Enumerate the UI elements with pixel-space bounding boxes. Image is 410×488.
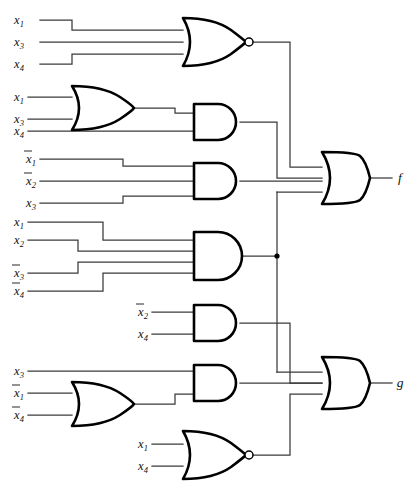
gate-and-c [194,232,242,280]
var-sub: 4 [20,63,25,73]
svg-text:x2: x2 [137,305,149,321]
input-label-and-c-3: x4 [12,283,25,300]
output-label-f: f [398,170,404,185]
input-label-nor-top-0: x1 [13,13,24,29]
var-sub: 4 [20,290,25,300]
gate-or-f [322,152,370,204]
var-sub: 4 [144,465,149,475]
input-label-and-b-1: x2 [24,173,37,190]
svg-text:x1: x1 [25,152,36,168]
svg-text:x3: x3 [13,266,24,282]
var-sub: 3 [19,272,24,282]
svg-text:x1: x1 [13,215,24,231]
svg-text:x4: x4 [13,57,25,73]
nor-bubble-icon [245,38,253,46]
input-label-nor-top-1: x3 [13,35,24,51]
var-sub: 1 [20,392,24,402]
gate-or-g [322,357,370,409]
var-sub: 4 [144,333,149,343]
input-label-and-c-1: x2 [13,233,25,249]
var-sub: 1 [32,158,36,168]
var-sub: 4 [20,130,25,140]
svg-text:x3: x3 [13,364,24,380]
input-label-and-d-0: x2 [136,304,149,321]
input-label-and-e-direct-0: x3 [13,364,24,380]
svg-text:x1: x1 [13,386,24,402]
var-sub: 1 [20,96,24,106]
input-label-nor-top-2: x4 [13,57,25,73]
var-sub: 1 [20,19,24,29]
svg-text:x3: x3 [25,196,36,212]
gate-and-b [194,163,236,199]
input-label-or-a-0: x1 [13,90,24,106]
svg-text:x3: x3 [13,35,24,51]
input-label-and-d-1: x4 [137,327,149,343]
input-label-or-b-1: x4 [12,407,25,424]
svg-text:x2: x2 [25,174,37,190]
gate-nor-top [183,18,253,66]
gate-or-b [72,382,134,426]
var-sub: 3 [31,202,36,212]
svg-text:x4: x4 [13,408,25,424]
gate-and-e [194,365,236,401]
gate-and-a [194,104,236,140]
var-sub: 1 [144,443,148,453]
svg-text:x1: x1 [13,90,24,106]
input-label-and-c-2: x3 [12,265,24,282]
svg-text:x1: x1 [13,13,24,29]
gate-and-d [194,305,236,341]
wire-junction-dot [274,253,279,258]
input-label-and-b-2: x3 [25,196,36,212]
svg-text:x4: x4 [137,327,149,343]
var-sub: 3 [19,370,24,380]
input-label-and-c-0: x1 [13,215,24,231]
input-label-nor-bottom-1: x4 [137,459,149,475]
var-sub: 2 [32,180,37,190]
output-label-g: g [397,375,404,390]
svg-text:x4: x4 [13,284,25,300]
gate-or-a [72,86,134,130]
input-label-nor-bottom-0: x1 [137,437,148,453]
var-sub: 4 [20,414,25,424]
var-sub: 1 [20,221,24,231]
input-label-and-b-0: x1 [24,151,36,168]
input-label-or-b-0: x1 [12,385,24,402]
gate-nor-bottom [183,431,253,479]
svg-text:x1: x1 [137,437,148,453]
var-sub: 2 [20,239,25,249]
svg-text:x4: x4 [137,459,149,475]
logic-circuit-diagram: x1 x3 x4 x1 x3 x4 x1 x2 x3 x1 x2 x3 x4 [0,0,410,488]
nor-bubble-icon [245,451,253,459]
var-sub: 2 [144,311,149,321]
svg-text:x2: x2 [13,233,25,249]
var-sub: 3 [19,41,24,51]
